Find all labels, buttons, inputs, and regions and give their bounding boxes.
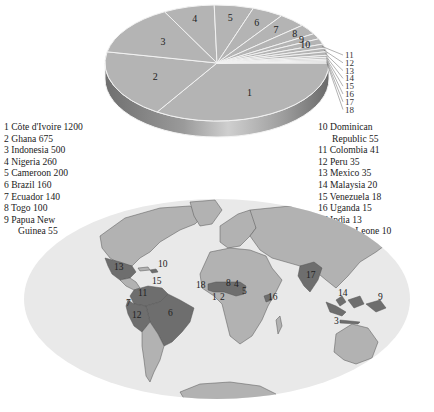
pie-label-18: 18	[345, 105, 355, 115]
legend-country: Colombia	[330, 144, 368, 155]
map-label-14: 14	[338, 288, 348, 298]
map-label-9: 9	[378, 292, 383, 302]
pie-label-4: 4	[192, 13, 197, 24]
legend-item: 3 Indonesia 500	[4, 144, 83, 156]
legend-country: Indonesia	[11, 144, 48, 155]
legend-continuation: Republic 55	[318, 133, 391, 145]
legend-item: 1 Côte d'Ivoire 1200	[4, 121, 83, 133]
legend-country: Peru	[330, 156, 348, 167]
legend-country: Dominican	[330, 121, 373, 132]
legend-country: Nigeria	[11, 156, 40, 167]
pie-leader-18	[327, 62, 343, 109]
pie-label-10: 10	[300, 39, 310, 50]
map-label-7: 7	[126, 298, 131, 308]
legend-value: 675	[39, 133, 53, 144]
legend-item: 13 Mexico 35	[318, 167, 391, 179]
world-map: 131015117126181284516171439	[0, 196, 434, 412]
legend-country: Côte d'Ivoire	[11, 121, 61, 132]
legend-number: 2	[4, 133, 9, 145]
map-label-15: 15	[152, 276, 162, 286]
legend-item: 4 Nigeria 260	[4, 156, 83, 168]
legend-value: 500	[51, 144, 65, 155]
legend-value: 35	[362, 167, 372, 178]
map-label-17: 17	[306, 270, 316, 280]
map-label-10: 10	[158, 259, 168, 269]
legend-item: 2 Ghana 675	[4, 133, 83, 145]
legend-value: 1200	[64, 121, 83, 132]
legend-number: 1	[4, 121, 9, 133]
legend-number: 14	[318, 179, 328, 191]
map-label-13: 13	[114, 262, 124, 272]
legend-value: 160	[37, 179, 51, 190]
legend-country: Malaysia	[330, 179, 365, 190]
land-caribbean	[138, 267, 150, 271]
pie-slices	[105, 5, 329, 121]
map-label-1: 1	[212, 292, 217, 302]
legend-number: 5	[4, 167, 9, 179]
legend-number: 10	[318, 121, 328, 133]
pie-label-3: 3	[161, 36, 166, 47]
legend-country: Cameroon	[11, 167, 51, 178]
legend-item: 5 Cameroon 200	[4, 167, 83, 179]
map-label-6: 6	[168, 308, 173, 318]
map-label-4: 4	[234, 279, 239, 289]
map-label-16: 16	[268, 292, 278, 302]
map-label-12: 12	[132, 310, 142, 320]
pie-label-8: 8	[292, 28, 297, 39]
legend-number: 13	[318, 167, 328, 179]
legend-number: 6	[4, 179, 9, 191]
map-label-5: 5	[242, 286, 247, 296]
map-label-2: 2	[220, 292, 225, 302]
legend-item: 14 Malaysia 20	[318, 179, 391, 191]
legend-item: 10 Dominican	[318, 121, 391, 133]
pie-label-2: 2	[153, 71, 158, 82]
pie-label-5: 5	[228, 12, 233, 23]
legend-value: 20	[368, 179, 378, 190]
map-label-11: 11	[138, 288, 147, 298]
map-label-18: 18	[196, 280, 206, 290]
legend-value: 41	[370, 144, 380, 155]
legend-country: Mexico	[330, 167, 359, 178]
map-label-8: 8	[226, 278, 231, 288]
legend-country: Ghana	[11, 133, 36, 144]
legend-number: 3	[4, 144, 9, 156]
legend-value: 260	[42, 156, 56, 167]
pie-label-1: 1	[247, 87, 252, 98]
legend-number: 11	[318, 144, 327, 156]
legend-number: 4	[4, 156, 9, 168]
legend-item: 12 Peru 35	[318, 156, 391, 168]
map-label-3: 3	[334, 316, 339, 326]
legend-number: 12	[318, 156, 328, 168]
pie-label-6: 6	[254, 17, 259, 28]
legend-value: 35	[350, 156, 360, 167]
legend-item: 11 Colombia 41	[318, 144, 391, 156]
pie-label-7: 7	[273, 24, 278, 35]
legend-value: 200	[54, 167, 68, 178]
legend-country: Brazil	[11, 179, 34, 190]
legend-item: 6 Brazil 160	[4, 179, 83, 191]
